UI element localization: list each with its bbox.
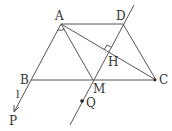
- angle-mark-A: [58, 29, 65, 30]
- segment-DC: [123, 24, 156, 80]
- label-P: P: [9, 114, 17, 128]
- point-C-dot: [154, 79, 157, 82]
- label-A: A: [54, 9, 64, 23]
- label-B: B: [20, 73, 29, 87]
- label-C: C: [159, 73, 168, 87]
- label-Q: Q: [86, 96, 96, 110]
- line-DQ: [70, 5, 134, 125]
- label-M: M: [93, 82, 105, 96]
- point-Q-dot: [80, 99, 84, 103]
- label-H: H: [108, 55, 118, 69]
- label-line-l: l: [16, 88, 20, 101]
- arrow-head-icon: [14, 105, 19, 112]
- line-l-through-AB: [14, 24, 61, 112]
- segment-AM: [61, 24, 93, 80]
- geometry-diagram: A D B C M H P Q l: [0, 0, 172, 131]
- label-D: D: [116, 9, 126, 23]
